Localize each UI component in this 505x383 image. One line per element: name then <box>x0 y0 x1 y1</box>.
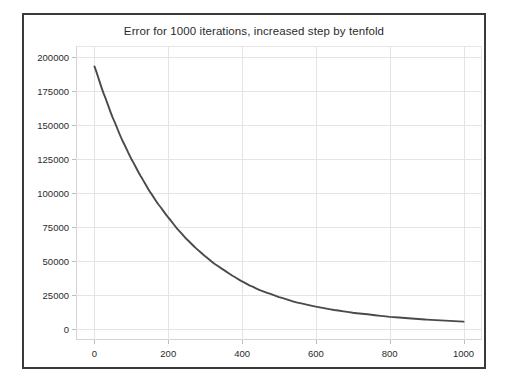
x-tick-mark <box>242 340 243 344</box>
y-tick-label: 175000 <box>37 85 69 96</box>
error-curve <box>76 46 482 340</box>
x-tick-mark <box>316 340 317 344</box>
y-tick-label: 150000 <box>37 119 69 130</box>
y-tick-label: 50000 <box>43 256 69 267</box>
x-tick-label: 200 <box>160 348 176 359</box>
x-tick-label: 600 <box>308 348 324 359</box>
error-curve-path <box>94 66 463 321</box>
x-tick-mark <box>94 340 95 344</box>
x-tick-label: 400 <box>234 348 250 359</box>
y-tick-label: 25000 <box>43 290 69 301</box>
x-tick-label: 0 <box>92 348 97 359</box>
x-tick-label: 1000 <box>453 348 474 359</box>
y-tick-label: 0 <box>64 324 69 335</box>
x-tick-mark <box>168 340 169 344</box>
x-tick-mark <box>390 340 391 344</box>
chart-title: Error for 1000 iterations, increased ste… <box>24 25 484 37</box>
x-tick-label: 800 <box>382 348 398 359</box>
y-tick-label: 75000 <box>43 222 69 233</box>
y-tick-label: 125000 <box>37 153 69 164</box>
plot-wrap: 0250005000075000100000125000150000175000… <box>76 46 482 340</box>
figure-frame: Error for 1000 iterations, increased ste… <box>22 13 486 369</box>
y-tick-label: 200000 <box>37 51 69 62</box>
y-tick-label: 100000 <box>37 188 69 199</box>
x-tick-mark <box>464 340 465 344</box>
